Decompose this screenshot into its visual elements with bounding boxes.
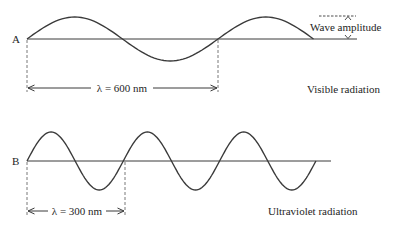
wave-b-radiation-label: Ultraviolet radiation [268, 205, 358, 217]
wave-a-group: A λ = 600 nm Visible radiation Wave ampl… [12, 16, 382, 95]
wave-a-radiation-label: Visible radiation [307, 83, 380, 95]
amplitude-top-arrow-icon [345, 17, 351, 21]
wave-b-group: B λ = 300 nm Ultraviolet radiation [12, 132, 358, 217]
wave-b-label: B [12, 155, 19, 167]
wave-b-wavelength-label: λ = 300 nm [52, 205, 103, 217]
wave-a-wavelength-label: λ = 600 nm [97, 82, 148, 94]
amplitude-label: Wave amplitude [310, 21, 382, 33]
wave-a-label: A [12, 33, 20, 45]
amplitude-bottom-arrow-icon [345, 35, 351, 39]
wave-diagram: A λ = 600 nm Visible radiation Wave ampl… [0, 0, 407, 228]
